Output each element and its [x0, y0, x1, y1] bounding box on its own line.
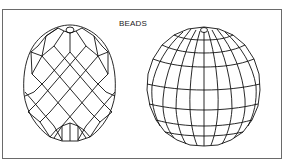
faceted-oval-bead-illustration — [18, 22, 122, 144]
faceted-round-bead-illustration — [143, 24, 265, 148]
